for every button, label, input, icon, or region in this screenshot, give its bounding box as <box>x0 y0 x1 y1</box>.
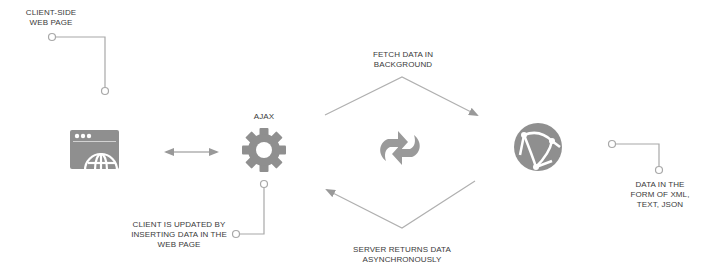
browser-globe-icon <box>70 130 120 172</box>
server-returns-label: SERVER RETURNS DATA ASYNCHRONOUSLY <box>346 245 458 265</box>
client-updated-label: CLIENT IS UPDATED BY INSERTING DATA IN T… <box>128 220 230 250</box>
fetch-arrow <box>325 77 477 115</box>
update-callout-connector <box>233 181 268 238</box>
return-arrow <box>327 181 475 228</box>
network-globe-icon <box>512 121 564 173</box>
ajax-label: AJAX <box>244 112 284 122</box>
client-callout-connector <box>49 34 109 95</box>
gear-icon <box>241 127 287 173</box>
format-callout-connector <box>609 141 663 174</box>
fetch-data-label: FETCH DATA IN BACKGROUND <box>355 50 451 70</box>
refresh-arrows-icon <box>376 127 424 169</box>
client-side-web-page-label: CLIENT-SIDE WEB PAGE <box>20 8 82 28</box>
data-format-label: DATA IN THE FORM OF XML, TEXT, JSON <box>628 180 692 210</box>
